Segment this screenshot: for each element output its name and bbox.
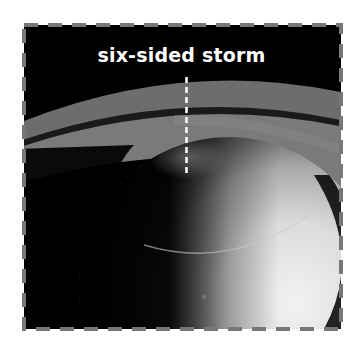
saturn-photo [24, 25, 341, 329]
saturn-illustration [24, 25, 341, 329]
annotation-pointer-line [185, 77, 188, 173]
annotation-label: six-sided storm [0, 44, 363, 66]
image-frame [22, 23, 343, 331]
